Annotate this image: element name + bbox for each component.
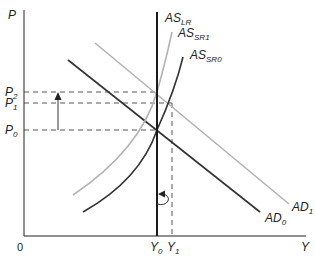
as-sr1-label: ASSR1 bbox=[177, 26, 210, 42]
x-axis-label: Y bbox=[301, 240, 310, 254]
as-sr0-label: ASSR0 bbox=[189, 48, 222, 64]
ad0-label: AD0 bbox=[264, 211, 287, 227]
origin-label: 0 bbox=[17, 241, 23, 253]
ad0-curve bbox=[68, 60, 260, 212]
y1-label: Y1 bbox=[167, 240, 179, 256]
price-rise-arrow-icon bbox=[55, 92, 62, 100]
y-axis-label: P bbox=[8, 8, 16, 22]
as-lr-label: ASLR bbox=[164, 11, 191, 27]
ad1-label: AD1 bbox=[291, 200, 313, 216]
p0-label: P0 bbox=[5, 123, 18, 139]
return-loop-arrow-icon bbox=[158, 191, 165, 198]
ad1-curve bbox=[95, 43, 289, 204]
as-ad-diagram: P Y 0 P2 P1 P0 Y0 Y1 ASLR ASSR1 ASSR0 AD… bbox=[0, 0, 315, 259]
y0-label: Y0 bbox=[150, 240, 163, 256]
as-sr0-curve bbox=[83, 57, 183, 212]
